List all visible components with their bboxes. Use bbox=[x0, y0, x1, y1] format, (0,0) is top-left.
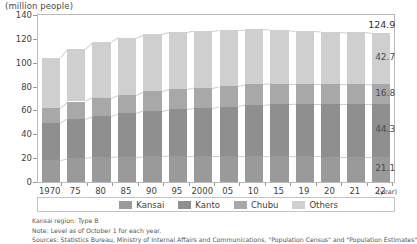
segment-connector-line bbox=[289, 30, 296, 32]
bar-segment-kanto bbox=[42, 123, 60, 159]
segment-connector-line bbox=[289, 156, 296, 157]
bar-column bbox=[143, 15, 161, 182]
bar-segment-kanto bbox=[245, 105, 263, 156]
bar-segment-others bbox=[270, 30, 288, 84]
footnote-region-type: Kansai region: Type B bbox=[32, 216, 412, 226]
segment-connector-line bbox=[289, 84, 296, 85]
bar-column bbox=[270, 15, 288, 182]
x-axis-tick-label: 2000 bbox=[191, 186, 213, 196]
bar-column bbox=[67, 15, 85, 182]
bar-segment-kansai bbox=[169, 156, 187, 182]
legend-label: Others bbox=[309, 200, 338, 210]
bar-segment-kansai bbox=[118, 157, 136, 182]
bar-segment-kanto bbox=[321, 104, 339, 157]
segment-connector-line bbox=[365, 32, 372, 34]
bar-column bbox=[321, 15, 339, 182]
x-axis-tick-mark bbox=[163, 183, 164, 186]
y-axis: 020406080100120140 bbox=[0, 14, 37, 183]
value-label-total: 124.9 bbox=[368, 19, 395, 30]
x-axis-tick-mark bbox=[367, 183, 368, 186]
bar-segment-others bbox=[92, 42, 110, 97]
x-axis-tick-label: 10 bbox=[248, 186, 259, 196]
bar-column bbox=[245, 15, 263, 182]
segment-connector-line bbox=[212, 156, 219, 157]
segment-connector-line bbox=[314, 31, 321, 33]
legend-swatch-icon bbox=[119, 201, 132, 209]
y-axis-tick-label: 120 bbox=[16, 34, 32, 44]
x-axis-tick-mark bbox=[316, 183, 317, 186]
bar-segment-kanto bbox=[347, 104, 365, 157]
bar-segment-kanto bbox=[169, 109, 187, 156]
bar-segment-others bbox=[347, 32, 365, 83]
bar-segment-chubu bbox=[347, 84, 365, 104]
bar-segment-kansai bbox=[143, 156, 161, 182]
bar-segment-kanto bbox=[118, 113, 136, 157]
bar-segment-chubu bbox=[296, 84, 314, 104]
bar-column bbox=[296, 15, 314, 182]
x-axis-tick-label: 90 bbox=[146, 186, 157, 196]
segment-connector-line bbox=[365, 84, 372, 85]
legend-swatch-icon bbox=[234, 201, 247, 209]
bar-segment-kansai bbox=[220, 156, 238, 182]
legend-item-others[interactable]: Others bbox=[292, 200, 338, 210]
plot-area bbox=[37, 14, 395, 183]
bar-segment-others bbox=[194, 31, 212, 88]
bar-segment-chubu bbox=[118, 95, 136, 114]
y-axis-tick-label: 100 bbox=[16, 58, 32, 68]
segment-connector-line bbox=[238, 29, 245, 30]
bar-segment-others bbox=[220, 30, 238, 87]
bar-column bbox=[372, 15, 390, 182]
bar-segment-others bbox=[143, 34, 161, 91]
bar-column bbox=[118, 15, 136, 182]
x-axis-tick-label: 80 bbox=[95, 186, 106, 196]
legend-item-kanto[interactable]: Kanto bbox=[178, 200, 220, 210]
x-axis-tick-label: 85 bbox=[121, 186, 132, 196]
bar-segment-kansai bbox=[92, 157, 110, 182]
bar-column bbox=[220, 15, 238, 182]
bar-segment-kanto bbox=[143, 111, 161, 157]
bar-segment-chubu bbox=[169, 89, 187, 109]
bar-segment-chubu bbox=[143, 91, 161, 110]
y-axis-tick-label: 60 bbox=[21, 105, 32, 115]
footnote-sources: Sources: Statistics Bureau, Ministry of … bbox=[32, 235, 412, 244]
bar-segment-kanto bbox=[296, 104, 314, 157]
x-axis-tick-mark bbox=[138, 183, 139, 186]
bar-segment-chubu bbox=[321, 84, 339, 104]
y-axis-tick-label: 140 bbox=[16, 10, 32, 20]
bar-segment-kanto bbox=[67, 119, 85, 159]
y-axis-tick-label: 0 bbox=[27, 177, 32, 187]
x-axis-tick-label: 19 bbox=[299, 186, 310, 196]
bar-segment-kansai bbox=[67, 158, 85, 182]
segment-connector-line bbox=[339, 32, 346, 34]
x-axis-tick-mark bbox=[214, 183, 215, 186]
x-axis-tick-label: 15 bbox=[273, 186, 284, 196]
segment-connector-line bbox=[136, 156, 143, 158]
segment-connector-line bbox=[314, 84, 321, 85]
x-axis-tick-mark bbox=[189, 183, 190, 186]
value-label-others: 42.7 bbox=[375, 52, 395, 62]
segment-connector-line bbox=[263, 84, 270, 86]
x-axis-tick-mark bbox=[61, 183, 62, 186]
y-axis-tick-label: 40 bbox=[21, 129, 32, 139]
footnote-note: Note: Level as of October 1 for each yea… bbox=[32, 226, 412, 236]
plot-inner bbox=[38, 15, 394, 182]
bar-column bbox=[169, 15, 187, 182]
segment-connector-line bbox=[238, 156, 245, 157]
legend-item-chubu[interactable]: Chubu bbox=[234, 200, 279, 210]
bar-segment-chubu bbox=[42, 108, 60, 124]
bar-segment-kanto bbox=[194, 108, 212, 156]
bar-segment-kansai bbox=[42, 160, 60, 182]
segment-connector-line bbox=[263, 29, 270, 30]
bar-segment-kanto bbox=[92, 116, 110, 158]
y-axis-tick-label: 20 bbox=[21, 153, 32, 163]
bar-segment-chubu bbox=[270, 84, 288, 105]
bar-segment-kansai bbox=[321, 157, 339, 182]
value-label-kanto: 44.3 bbox=[375, 124, 395, 134]
x-axis-tick-label: 95 bbox=[171, 186, 182, 196]
segment-connector-line bbox=[340, 104, 347, 105]
x-axis-tick-label: 75 bbox=[70, 186, 81, 196]
legend-swatch-icon bbox=[292, 201, 305, 209]
legend-label: Kanto bbox=[195, 200, 220, 210]
legend-label: Chubu bbox=[251, 200, 279, 210]
legend-item-kansai[interactable]: Kansai bbox=[119, 200, 164, 210]
